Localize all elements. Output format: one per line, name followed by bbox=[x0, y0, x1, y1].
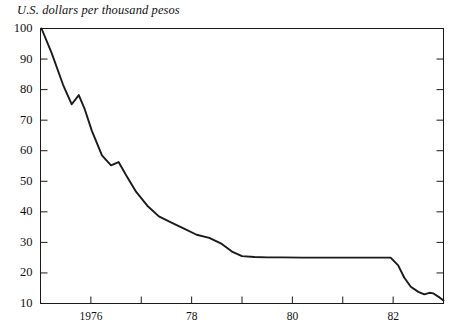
y-axis-tick-label: 10 bbox=[5, 297, 33, 309]
x-axis-tick-label: 80 bbox=[262, 310, 322, 322]
y-axis-tick-label: 60 bbox=[5, 144, 33, 156]
x-axis-tick-label: 82 bbox=[363, 310, 423, 322]
y-axis-tick-label: 80 bbox=[5, 83, 33, 95]
y-axis-tick-label: 50 bbox=[5, 175, 33, 187]
series-line bbox=[42, 29, 444, 301]
y-axis-tick-label: 30 bbox=[5, 236, 33, 248]
plot-canvas bbox=[0, 0, 454, 333]
y-axis-tick-label: 40 bbox=[5, 205, 33, 217]
x-axis-ticks bbox=[91, 297, 393, 304]
data-series-group bbox=[42, 29, 444, 301]
y-axis-tick-label: 70 bbox=[5, 114, 33, 126]
y-axis-tick-label: 100 bbox=[5, 22, 33, 34]
axes-frame bbox=[41, 29, 444, 304]
plot-frame bbox=[41, 29, 444, 304]
x-axis-tick-label: 78 bbox=[162, 310, 222, 322]
y-axis-tick-label: 90 bbox=[5, 53, 33, 65]
chart-figure: U.S. dollars per thousand pesos 10090807… bbox=[0, 0, 454, 333]
x-axis-tick-label: 1976 bbox=[61, 310, 121, 322]
y-axis-tick-label: 20 bbox=[5, 266, 33, 278]
y-axis-ticks bbox=[41, 59, 444, 273]
